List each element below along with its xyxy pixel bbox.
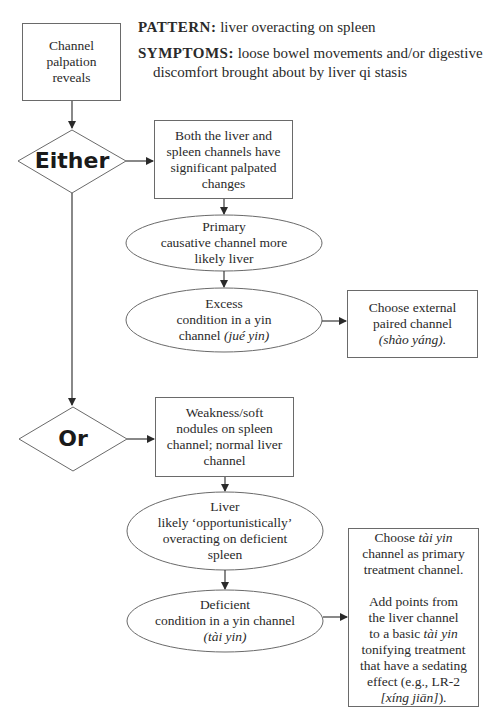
primary-line: Primary — [161, 219, 288, 235]
or-result-box: Choose tài yin channel as primary treatm… — [348, 528, 479, 707]
pattern-text: liver overacting on spleen — [220, 19, 375, 35]
either-label: Either — [18, 148, 126, 173]
either-condition-box: Both the liver and spleen channels have … — [154, 120, 293, 199]
deficient-line: condition in a yin channel — [155, 613, 295, 629]
result-text: channel as primary — [360, 546, 467, 562]
excess-channel-name: (jué yin) — [224, 328, 269, 343]
result-text: tonifying treatment — [360, 642, 467, 658]
pattern-label: PATTERN: — [138, 19, 216, 35]
deficient-channel-name: (tài yin) — [155, 629, 295, 645]
result-point-name: [xíng jiān] — [380, 690, 438, 705]
condition-line: significant palpated — [167, 160, 281, 176]
start-box: Channel palpation reveals — [22, 23, 121, 101]
result-text: Add points from — [360, 594, 467, 610]
liver-line: overacting on deficient — [158, 531, 293, 547]
result-text: treatment channel. — [360, 562, 467, 578]
result-text: effect (e.g., LR-2 — [360, 674, 467, 690]
result-channel-name: tài yin — [424, 626, 458, 641]
start-line: reveals — [46, 70, 96, 86]
symptoms-text-line1: loose bowel movements and/or digestive — [238, 45, 483, 61]
liver-line: Liver — [158, 499, 293, 515]
start-line: Channel — [46, 38, 96, 54]
result-text: that have a sedating — [360, 658, 467, 674]
result-line: Choose external — [369, 300, 456, 316]
excess-line: condition in a yin — [177, 312, 272, 328]
excess-line: Excess — [177, 296, 272, 312]
primary-ellipse-text: Primary causative channel more likely li… — [126, 215, 322, 271]
condition-line: Both the liver and — [167, 128, 281, 144]
symptoms-label: SYMPTOMS: — [138, 45, 234, 61]
result-text: Choose — [375, 530, 419, 545]
excess-ellipse-text: Excess condition in a yin channel (jué y… — [126, 288, 322, 352]
symptoms-block: SYMPTOMS: loose bowel movements and/or d… — [138, 44, 488, 82]
result-text: ). — [439, 690, 447, 705]
liver-line: spleen — [158, 547, 293, 563]
or-condition-box: Weakness/soft nodules on spleen channel;… — [155, 397, 294, 477]
condition-line: changes — [167, 176, 281, 192]
start-line: palpation — [46, 54, 96, 70]
primary-line: causative channel more — [161, 235, 288, 251]
or-label: Or — [19, 426, 127, 451]
result-channel-name: tài yin — [418, 530, 452, 545]
deficient-ellipse-text: Deficient condition in a yin channel (tà… — [127, 590, 323, 652]
result-channel-name: (shào yáng). — [369, 332, 456, 348]
result-text: the liver channel — [360, 610, 467, 626]
condition-line: channel; normal liver — [167, 437, 282, 453]
excess-prefix: channel — [179, 328, 224, 343]
condition-line: nodules on spleen — [167, 421, 282, 437]
pattern-line: PATTERN: liver overacting on spleen — [138, 18, 376, 37]
deficient-line: Deficient — [155, 597, 295, 613]
either-result-box: Choose external paired channel (shào yán… — [347, 290, 478, 358]
liver-line: likely ‘opportunistically’ — [158, 515, 293, 531]
condition-line: channel — [167, 453, 282, 469]
symptoms-text-line2: discomfort brought about by liver qi sta… — [138, 63, 488, 82]
condition-line: spleen channels have — [167, 144, 281, 160]
result-line: paired channel — [369, 316, 456, 332]
primary-line: likely liver — [161, 251, 288, 267]
liver-ellipse-text: Liver likely ‘opportunistically’ overact… — [127, 492, 323, 570]
result-text: to a basic — [369, 626, 423, 641]
condition-line: Weakness/soft — [167, 405, 282, 421]
